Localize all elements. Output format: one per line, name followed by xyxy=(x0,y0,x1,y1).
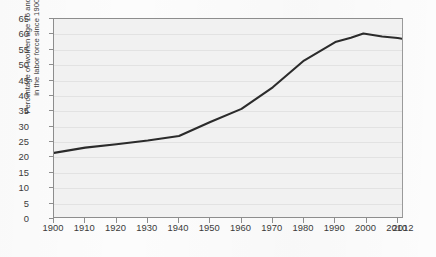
x-axis-tick-labels: 1900191019201930194019501960197019801990… xyxy=(0,0,436,257)
x-tick-label: 1960 xyxy=(230,222,251,233)
x-tick-label: 1900 xyxy=(43,222,64,233)
x-tick-label: 1950 xyxy=(199,222,220,233)
x-tick-mark xyxy=(334,218,335,223)
x-tick-mark xyxy=(303,218,304,223)
x-tick-label: 1930 xyxy=(136,222,157,233)
x-tick-mark xyxy=(241,218,242,223)
x-tick-label: 2012 xyxy=(393,222,414,233)
chart-figure: Percentage of women age 16 and over in t… xyxy=(0,0,436,257)
x-tick-mark xyxy=(116,218,117,223)
x-tick-label: 1990 xyxy=(324,222,345,233)
x-tick-mark xyxy=(209,218,210,223)
x-tick-mark xyxy=(272,218,273,223)
x-tick-label: 2000 xyxy=(355,222,376,233)
x-tick-label: 1980 xyxy=(293,222,314,233)
x-tick-mark xyxy=(84,218,85,223)
x-tick-label: 1910 xyxy=(74,222,95,233)
x-tick-mark xyxy=(366,218,367,223)
x-tick-label: 1920 xyxy=(105,222,126,233)
x-tick-mark xyxy=(53,218,54,223)
x-tick-mark xyxy=(147,218,148,223)
x-tick-label: 1940 xyxy=(168,222,189,233)
x-tick-mark xyxy=(178,218,179,223)
x-tick-label: 1970 xyxy=(261,222,282,233)
